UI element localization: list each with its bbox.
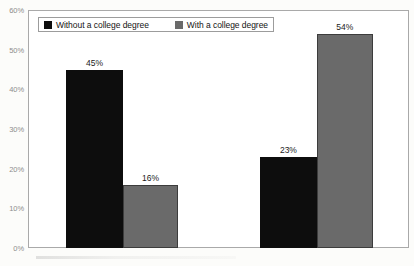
legend-label-without-college-degree: Without a college degree: [56, 20, 149, 30]
y-axis-tick-0: 0%: [13, 244, 24, 253]
bar-value-label-group1-without-degree: 45%: [86, 58, 103, 68]
bar-value-label-group1-with-degree: 16%: [142, 173, 159, 183]
bar-group2-without-degree: [260, 157, 317, 248]
bar-value-label-group2-without-degree: 23%: [280, 145, 297, 155]
legend-label-with-college-degree: With a college degree: [187, 20, 268, 30]
legend-item-without-college-degree: Without a college degree: [44, 20, 149, 30]
y-axis-tick-30: 30%: [9, 125, 24, 134]
y-axis-tick-40: 40%: [9, 85, 24, 94]
y-axis-tick-60: 60%: [9, 6, 24, 15]
legend-swatch-icon-without-college-degree: [44, 21, 52, 29]
legend-item-with-college-degree: With a college degree: [175, 20, 268, 30]
chart-legend: Without a college degree With a college …: [38, 17, 274, 32]
scan-artifact: [36, 256, 236, 259]
bar-chart: 60% 50% 40% 30% 20% 10% 0% 45% 16% 23% 5…: [0, 0, 414, 266]
bar-group1-with-degree: [123, 185, 178, 248]
bar-group1-without-degree: [66, 70, 123, 249]
y-axis: 60% 50% 40% 30% 20% 10% 0%: [0, 10, 28, 248]
y-axis-tick-20: 20%: [9, 164, 24, 173]
bar-group2-with-degree: [317, 34, 373, 248]
bar-value-label-group2-with-degree: 54%: [336, 22, 353, 32]
y-axis-tick-50: 50%: [9, 45, 24, 54]
plot-area: 45% 16% 23% 54%: [28, 10, 409, 248]
legend-swatch-icon-with-college-degree: [175, 21, 183, 29]
y-axis-tick-10: 10%: [9, 204, 24, 213]
